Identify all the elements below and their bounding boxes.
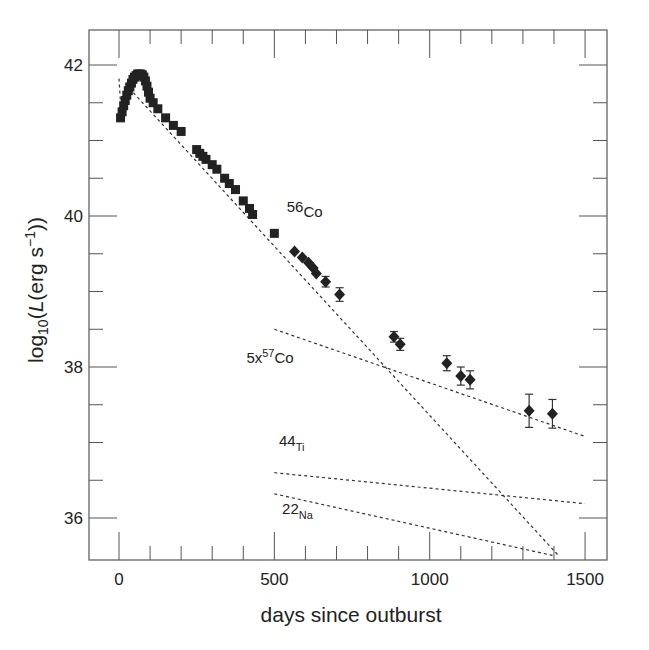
isotope-label-co: 5x57Co: [246, 347, 293, 366]
data-point-square: [161, 113, 170, 122]
isotope-label-co: 56Co: [287, 198, 323, 220]
data-point-diamond: [465, 374, 476, 386]
data-point-diamond: [441, 357, 452, 369]
data-point-square: [177, 127, 186, 136]
light-curve-chart: 05001000150036384042 56Co5x57Co44Ti22Na …: [0, 0, 649, 650]
model-line-5x57co: [274, 329, 585, 436]
model-line-56co: [125, 84, 558, 556]
data-point-diamond: [547, 408, 558, 420]
data-point-diamond: [524, 405, 535, 417]
data-point-square: [248, 210, 257, 219]
y-tick-label: 40: [64, 207, 83, 226]
y-tick-label: 38: [64, 358, 83, 377]
x-tick-label: 0: [114, 570, 123, 589]
data-points: [116, 70, 558, 429]
isotope-labels: 56Co5x57Co44Ti22Na: [246, 198, 322, 521]
data-point-square: [231, 185, 240, 194]
data-point-square: [270, 229, 279, 238]
x-tick-label: 1500: [566, 570, 604, 589]
data-point-square: [153, 104, 162, 113]
data-point-diamond: [455, 370, 466, 382]
decay-model-lines: [119, 79, 585, 556]
data-point-diamond: [289, 245, 300, 257]
y-axis-label: log10(L(erg s−1)): [22, 217, 51, 363]
data-point-diamond: [320, 276, 331, 288]
data-point-square: [169, 121, 178, 130]
y-tick-label: 36: [64, 509, 83, 528]
y-tick-label: 42: [64, 56, 83, 75]
axis-tick-labels: 05001000150036384042: [64, 56, 604, 589]
model-line-44ti: [274, 473, 585, 504]
x-axis-label: days since outburst: [261, 603, 442, 626]
isotope-label-na: 22Na: [282, 500, 314, 521]
data-point-diamond: [334, 289, 345, 301]
x-tick-label: 1000: [411, 570, 449, 589]
isotope-label-ti: 44Ti: [279, 432, 304, 453]
model-line-22na: [274, 494, 554, 556]
data-point-square: [212, 165, 221, 174]
x-tick-label: 500: [260, 570, 288, 589]
